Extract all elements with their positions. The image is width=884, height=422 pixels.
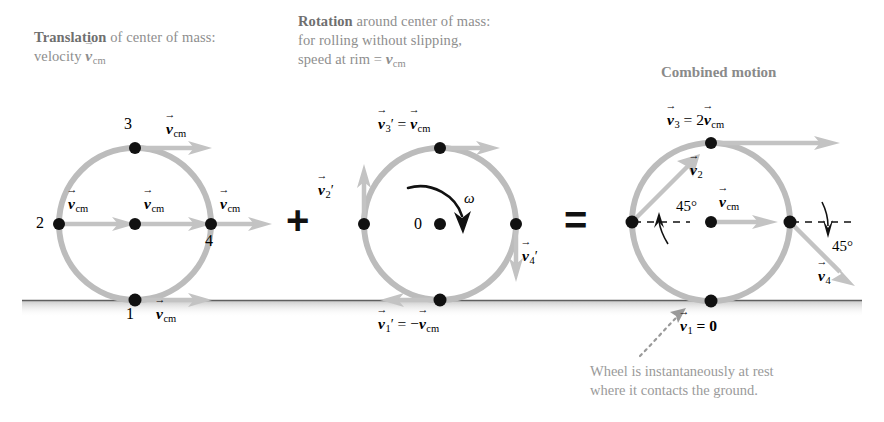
angle-marker-left <box>654 212 668 244</box>
label-angle-right: 45° <box>832 238 853 255</box>
label-v4-combined: v4 <box>818 268 831 286</box>
arrow-vcm-combined-center <box>711 215 778 229</box>
v3-sym: v <box>667 111 674 128</box>
label-v3-equation: v3 = 2vcm <box>667 112 724 130</box>
angle-marker-right <box>822 202 833 238</box>
wheel-combined <box>0 0 884 422</box>
v3-rhs-sym: v <box>704 111 711 128</box>
v3-rel: = 2 <box>680 111 704 128</box>
v4-sym: v <box>818 267 825 284</box>
label-angle-left: 45° <box>676 198 697 215</box>
annotation-line-2: where it contacts the ground. <box>590 381 758 400</box>
comb-point-1-dot <box>705 295 718 308</box>
comb-point-center-dot <box>705 216 717 228</box>
label-v2-combined: v2 <box>690 162 703 180</box>
figure-canvas: Translation of center of mass: velocity … <box>0 0 884 422</box>
comb-point-3-dot <box>705 137 717 149</box>
v2-sym: v <box>690 161 697 178</box>
vcm-comb-sym: v <box>719 193 726 210</box>
v2-sub: 2 <box>697 169 702 180</box>
v1-zero: 0 <box>709 317 717 334</box>
v4-sub: 4 <box>825 275 830 286</box>
v1-sym: v <box>680 317 687 334</box>
label-vcm-combined: vcm <box>719 194 739 212</box>
comb-point-2-dot <box>626 216 639 229</box>
comb-point-4-dot <box>784 216 797 229</box>
v1-rel: = <box>693 317 710 334</box>
vcm-comb-sub: cm <box>726 201 739 212</box>
v3-rhs-sub: cm <box>711 119 724 130</box>
annotation-line-1: Wheel is instantaneously at rest <box>590 362 774 381</box>
label-v1-equation: v1 = 0 <box>680 318 717 336</box>
